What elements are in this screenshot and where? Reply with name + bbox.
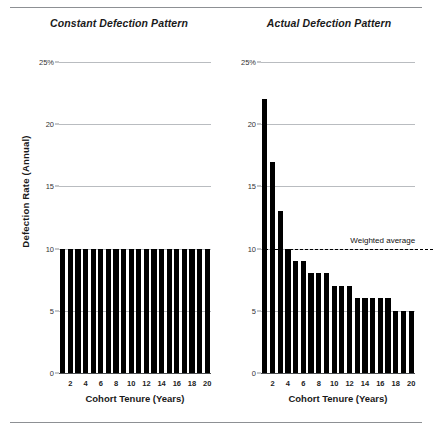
x-tick-label-10: 10: [127, 379, 135, 388]
bar: [339, 286, 344, 373]
bar: [98, 249, 103, 373]
chart-title-constant: Constant Defection Pattern: [26, 17, 212, 29]
bar: [151, 249, 156, 373]
x-tick-label-20: 20: [407, 379, 415, 388]
chart-title-actual: Actual Defection Pattern: [234, 17, 424, 29]
bar: [385, 298, 390, 373]
bar: [301, 261, 306, 373]
bar: [60, 249, 65, 373]
bar: [144, 249, 149, 373]
x-tick-label-20: 20: [203, 379, 211, 388]
x-tick-label-10: 10: [330, 379, 338, 388]
x-tick-label-8: 8: [317, 379, 321, 388]
bar: [362, 298, 367, 373]
weighted-average-label: Weighted average: [350, 236, 415, 245]
x-tick-label-4: 4: [286, 379, 290, 388]
bar: [106, 249, 111, 373]
bars-constant: [59, 62, 211, 373]
bar: [68, 249, 73, 373]
bar: [270, 162, 275, 373]
y-tick-label-25: 25%: [39, 58, 54, 67]
bar: [393, 311, 398, 373]
x-tick-label-16: 16: [173, 379, 181, 388]
bar: [197, 249, 202, 373]
bar: [378, 298, 383, 373]
y-tick-label-0: 0: [50, 369, 54, 378]
x-tick-label-14: 14: [361, 379, 369, 388]
y-tick-label-25: 25%: [241, 58, 256, 67]
bar: [182, 249, 187, 373]
bar: [121, 249, 126, 373]
x-tick-label-2: 2: [68, 379, 72, 388]
bar: [174, 249, 179, 373]
x-tick-label-4: 4: [84, 379, 88, 388]
x-tick-label-18: 18: [188, 379, 196, 388]
plot-area-actual: 0510152025% Weighted average 24681012141…: [261, 62, 415, 373]
x-tick-label-14: 14: [157, 379, 165, 388]
y-tick-label-5: 5: [252, 306, 256, 315]
x-tick-label-12: 12: [142, 379, 150, 388]
bar: [262, 99, 267, 373]
bar: [355, 298, 360, 373]
x-tick-label-6: 6: [301, 379, 305, 388]
y-tick-label-20: 20: [46, 120, 54, 129]
bar: [316, 273, 321, 373]
chart-panel-constant: Constant Defection Pattern 0510152025% 2…: [32, 0, 218, 447]
chart-panel-actual: Actual Defection Pattern 0510152025% Wei…: [232, 0, 422, 447]
bar: [308, 273, 313, 373]
x-tick-label-18: 18: [392, 379, 400, 388]
bar: [347, 286, 352, 373]
x-tick-label-8: 8: [114, 379, 118, 388]
x-tick-label-2: 2: [270, 379, 274, 388]
y-tick-label-10: 10: [248, 244, 256, 253]
y-tick-label-10: 10: [46, 244, 54, 253]
plot-area-constant: 0510152025% 2468101214161820 Cohort Tenu…: [59, 62, 211, 373]
bar: [370, 298, 375, 373]
y-tick-label-20: 20: [248, 120, 256, 129]
bar: [401, 311, 406, 373]
bar: [293, 261, 298, 373]
bar: [285, 249, 290, 373]
x-tick-label-12: 12: [345, 379, 353, 388]
gridline-0: [59, 373, 211, 374]
bar: [113, 249, 118, 373]
bar: [189, 249, 194, 373]
bar: [75, 249, 80, 373]
bar: [332, 286, 337, 373]
bar: [159, 249, 164, 373]
y-axis-label: Defection Rate (Annual): [20, 107, 31, 277]
y-tick-label-15: 15: [46, 182, 54, 191]
x-tick-label-6: 6: [99, 379, 103, 388]
bar: [205, 249, 210, 373]
x-ticks-constant: 2468101214161820: [59, 379, 211, 391]
x-axis-label-actual: Cohort Tenure (Years): [261, 393, 415, 404]
bar: [167, 249, 172, 373]
bar: [91, 249, 96, 373]
y-tick-label-0: 0: [252, 369, 256, 378]
bar: [129, 249, 134, 373]
bar: [278, 211, 283, 373]
weighted-average-line: [265, 249, 433, 250]
y-tick-label-15: 15: [248, 182, 256, 191]
x-tick-label-16: 16: [376, 379, 384, 388]
x-axis-label-constant: Cohort Tenure (Years): [59, 393, 211, 404]
bar: [324, 273, 329, 373]
gridline-0: [261, 373, 415, 374]
x-ticks-actual: 2468101214161820: [261, 379, 415, 391]
bar: [136, 249, 141, 373]
bar: [83, 249, 88, 373]
y-tick-label-5: 5: [50, 306, 54, 315]
bars-actual: [261, 62, 415, 373]
bar: [409, 311, 414, 373]
